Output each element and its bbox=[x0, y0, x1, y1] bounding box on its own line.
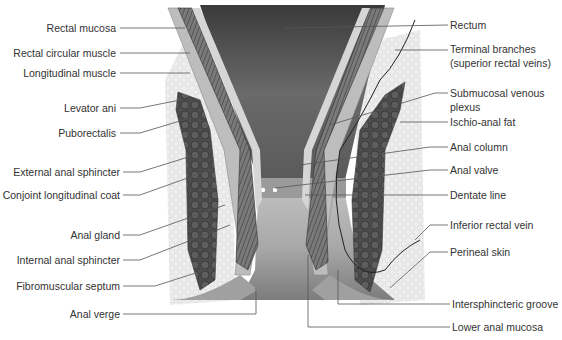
label-rectum: Rectum bbox=[450, 19, 486, 31]
label-internal-anal-sphincter: Internal anal sphincter bbox=[17, 254, 120, 266]
label-terminal-branches: Terminal branches bbox=[450, 43, 536, 55]
label-ischio-anal-fat: Ischio-anal fat bbox=[450, 116, 515, 128]
label-anal-verge: Anal verge bbox=[70, 308, 120, 320]
label-anal-column: Anal column bbox=[450, 141, 508, 153]
label-conjoint-longitudinal-coat: Conjoint longitudinal coat bbox=[3, 189, 120, 201]
label-terminal-branches-sub: (superior rectal veins) bbox=[450, 57, 551, 69]
label-puborectalis: Puborectalis bbox=[58, 127, 116, 139]
label-fibromuscular-septum: Fibromuscular septum bbox=[16, 280, 120, 292]
label-submucosal-venous-plexus: Submucosal venous bbox=[450, 87, 545, 99]
label-longitudinal-muscle: Longitudinal muscle bbox=[23, 67, 116, 79]
label-inferior-rectal-vein: Inferior rectal vein bbox=[450, 219, 533, 231]
label-levator-ani: Levator ani bbox=[64, 102, 116, 114]
label-rectal-mucosa: Rectal mucosa bbox=[47, 22, 116, 34]
label-intersphincteric-groove: Intersphincteric groove bbox=[452, 298, 558, 310]
label-dentate-line: Dentate line bbox=[450, 189, 506, 201]
label-external-anal-sphincter: External anal sphincter bbox=[13, 166, 120, 178]
label-lower-anal-mucosa: Lower anal mucosa bbox=[452, 321, 543, 333]
label-anal-gland: Anal gland bbox=[70, 229, 120, 241]
anatomy-diagram: Rectal mucosa Rectal circular muscle Lon… bbox=[0, 0, 562, 340]
label-perineal-skin: Perineal skin bbox=[450, 246, 510, 258]
label-anal-valve: Anal valve bbox=[450, 164, 498, 176]
label-submucosal-venous-plexus-sub: plexus bbox=[450, 101, 480, 113]
label-rectal-circular-muscle: Rectal circular muscle bbox=[13, 47, 116, 59]
